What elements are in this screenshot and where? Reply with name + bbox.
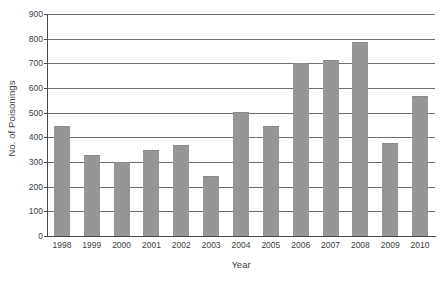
x-tick-label-2007: 2007 xyxy=(316,240,346,250)
bar-2002 xyxy=(173,145,189,236)
x-tick-label-2004: 2004 xyxy=(226,240,256,250)
y-tick-label: 0 xyxy=(38,232,43,241)
bar-2003 xyxy=(203,176,219,236)
bar-2004 xyxy=(233,112,249,236)
gridline xyxy=(47,88,435,89)
x-tick-label-2008: 2008 xyxy=(345,240,375,250)
x-tick-label-2010: 2010 xyxy=(405,240,435,250)
bar-chart: No. of Poisonings 9008007006005004003002… xyxy=(0,0,441,282)
y-axis-title-label: No. of Poisonings xyxy=(6,80,17,156)
x-tick-label-2006: 2006 xyxy=(286,240,316,250)
y-tick-label: 200 xyxy=(29,183,43,192)
y-tick-mark xyxy=(44,39,48,40)
bar-2000 xyxy=(114,162,130,236)
bar-1998 xyxy=(54,126,70,236)
x-tick-label-2005: 2005 xyxy=(256,240,286,250)
y-tick-label: 900 xyxy=(29,10,43,19)
bar-2007 xyxy=(323,60,339,236)
x-axis-line xyxy=(47,236,436,237)
x-axis-title: Year xyxy=(47,259,435,270)
x-axis-title-label: Year xyxy=(231,259,250,270)
x-tick-label-1998: 1998 xyxy=(47,240,77,250)
bar-2008 xyxy=(352,42,368,236)
bar-2001 xyxy=(143,150,159,236)
y-tick-mark xyxy=(44,162,48,163)
bar-2006 xyxy=(293,63,309,236)
y-tick-label: 400 xyxy=(29,133,43,142)
bar-2005 xyxy=(263,126,279,236)
bar-1999 xyxy=(84,155,100,236)
gridline xyxy=(47,14,435,15)
y-axis-tick-labels: 9008007006005004003002001000 xyxy=(22,0,47,250)
y-axis-title: No. of Poisonings xyxy=(0,0,22,236)
y-tick-mark xyxy=(44,187,48,188)
x-axis-tick-labels: 1998199920002001200220032004200520062007… xyxy=(47,240,435,254)
plot-area xyxy=(47,14,435,236)
x-tick-label-1999: 1999 xyxy=(77,240,107,250)
gridline xyxy=(47,63,435,64)
gridline xyxy=(47,39,435,40)
y-tick-mark xyxy=(44,236,48,237)
x-tick-label-2002: 2002 xyxy=(166,240,196,250)
bar-2009 xyxy=(382,143,398,236)
y-tick-label: 500 xyxy=(29,109,43,118)
bar-2010 xyxy=(412,96,428,236)
y-tick-label: 800 xyxy=(29,35,43,44)
y-tick-label: 700 xyxy=(29,59,43,68)
x-tick-label-2000: 2000 xyxy=(107,240,137,250)
x-tick-label-2009: 2009 xyxy=(375,240,405,250)
y-tick-mark xyxy=(44,211,48,212)
y-tick-label: 100 xyxy=(29,207,43,216)
x-tick-label-2003: 2003 xyxy=(196,240,226,250)
y-tick-label: 600 xyxy=(29,84,43,93)
y-tick-label: 300 xyxy=(29,158,43,167)
y-tick-mark xyxy=(44,63,48,64)
y-tick-mark xyxy=(44,88,48,89)
y-tick-mark xyxy=(44,113,48,114)
y-tick-mark xyxy=(44,137,48,138)
x-tick-label-2001: 2001 xyxy=(137,240,167,250)
y-tick-mark xyxy=(44,14,48,15)
